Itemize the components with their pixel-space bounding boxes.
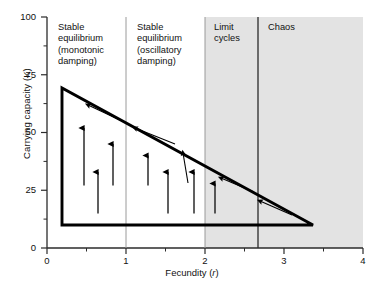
region-label-line: Stable xyxy=(58,22,104,33)
region-label-oscillatory: Stable equilibrium (oscillatory damping) xyxy=(137,22,182,68)
x-axis-title-paren: ) xyxy=(216,267,219,278)
x-axis-title-text: Fecundity ( xyxy=(165,267,212,278)
arrow-diagonal xyxy=(88,105,122,121)
region-label-limit-cycles: Limit cycles xyxy=(214,22,240,45)
x-tick-label-0: 0 xyxy=(37,255,57,266)
region-label-line: equilibrium xyxy=(58,33,104,44)
region-label-line: (oscillatory xyxy=(137,45,182,56)
region-label-line: Chaos xyxy=(268,22,295,33)
region-label-monotonic: Stable equilibrium (monotonic damping) xyxy=(58,22,104,68)
figure-container: 100 75 50 25 0 0 1 2 3 4 Carrying capaci… xyxy=(0,0,384,290)
x-major-ticks xyxy=(47,248,363,254)
vector-arrows-up xyxy=(84,128,215,214)
region-label-line: Limit xyxy=(214,22,240,33)
region-label-line: Stable xyxy=(137,22,182,33)
x-axis-title: Fecundity (r) xyxy=(0,267,384,278)
x-tick-label-1: 1 xyxy=(116,255,136,266)
y-major-ticks xyxy=(41,17,47,248)
y-tick-label-100: 100 xyxy=(6,11,36,22)
chaotic-shading-region xyxy=(205,17,363,248)
y-tick-label-25: 25 xyxy=(6,184,36,195)
x-tick-label-3: 3 xyxy=(274,255,294,266)
region-label-line: (monotonic xyxy=(58,45,104,56)
region-label-line: damping) xyxy=(137,56,182,67)
region-label-line: cycles xyxy=(214,33,240,44)
region-label-line: equilibrium xyxy=(137,33,182,44)
x-tick-label-4: 4 xyxy=(353,255,373,266)
arrow-diagonal xyxy=(135,128,175,144)
region-label-line: damping) xyxy=(58,56,104,67)
x-tick-label-2: 2 xyxy=(195,255,215,266)
region-label-chaos: Chaos xyxy=(268,22,295,33)
y-axis-title: Carrying capacity (K) xyxy=(21,44,32,184)
y-tick-label-0: 0 xyxy=(6,242,36,253)
